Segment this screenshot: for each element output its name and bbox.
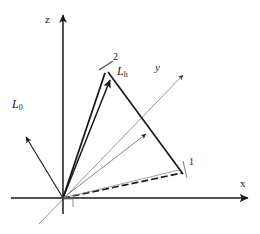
right-angle-marker bbox=[64, 199, 73, 207]
vector-L0-label-sub: 0 bbox=[19, 103, 23, 112]
y-axis-label: y bbox=[155, 62, 160, 73]
point-2-label: 2 bbox=[113, 52, 118, 62]
vector-Lh-label-base: L bbox=[117, 64, 124, 78]
edge-origin-to-point1 bbox=[63, 173, 182, 198]
vector-Lh-label-sub: h bbox=[124, 70, 128, 79]
point-1-tick bbox=[183, 161, 187, 178]
x-axis-label: x bbox=[240, 178, 246, 189]
vector-Lh-label: Lh bbox=[117, 65, 128, 77]
vector-L0-label: L0 bbox=[12, 98, 23, 110]
vector-diagram-figure: z x y L0 Lh 2 1 bbox=[0, 0, 260, 234]
point-2-tick bbox=[99, 61, 113, 70]
diagram-canvas bbox=[0, 0, 260, 234]
y-axis-line bbox=[39, 75, 183, 224]
gray-ray-lower bbox=[63, 170, 179, 198]
vector-L0 bbox=[26, 137, 63, 198]
edge-point2-to-point1 bbox=[108, 72, 183, 174]
point-1-label: 1 bbox=[189, 157, 194, 167]
z-axis-label: z bbox=[45, 14, 50, 25]
edge-origin-to-point2 bbox=[63, 73, 105, 198]
vector-L0-label-base: L bbox=[12, 97, 19, 111]
